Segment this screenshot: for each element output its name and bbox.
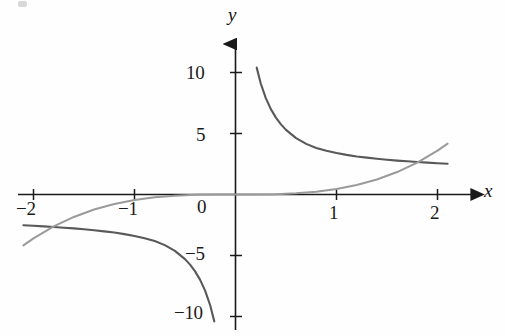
origin-label: 0 — [197, 196, 206, 218]
x-tick-label--2: −2 — [16, 198, 36, 220]
y-axis-label: y — [228, 4, 236, 26]
graph-figure: y x 10 5 −5 −10 0 −2 −1 1 2 — [0, 0, 505, 336]
y-tick-label--5: −5 — [185, 243, 205, 265]
y-tick-label-10: 10 — [186, 62, 204, 84]
y-tick-label-5: 5 — [196, 124, 205, 146]
x-tick-label--1: −1 — [118, 198, 138, 220]
plot-canvas — [0, 0, 505, 336]
x-tick-label-1: 1 — [329, 202, 338, 224]
x-tick-label-2: 2 — [430, 202, 439, 224]
x-axis-label: x — [484, 180, 492, 202]
dark-curve-positive-branch — [257, 68, 448, 164]
y-tick-label--10: −10 — [174, 302, 203, 324]
